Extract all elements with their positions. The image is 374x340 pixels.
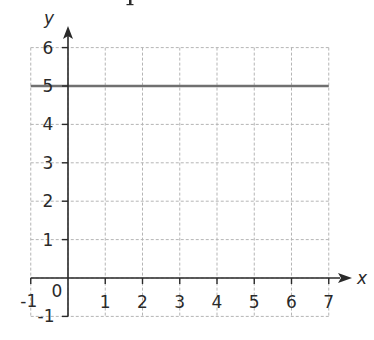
axes xyxy=(31,26,352,316)
y-tick-label: 1 xyxy=(43,230,54,250)
x-tick-label: 3 xyxy=(174,292,185,312)
y-tick-label: 2 xyxy=(43,191,54,211)
x-axis-title: x xyxy=(356,268,368,288)
x-tick-label: 6 xyxy=(286,292,297,312)
y-axis-title: y xyxy=(43,8,55,28)
grid-lines xyxy=(31,48,329,317)
x-tick-label: 1 xyxy=(100,292,111,312)
y-tick-label: 6 xyxy=(43,38,54,58)
x-tick-label: 7 xyxy=(323,292,334,312)
origin-label: 0 xyxy=(52,281,63,301)
graph-chart: -11234567-11234560xy xyxy=(0,0,374,340)
y-tick-label: -1 xyxy=(38,306,55,326)
y-tick-label: 3 xyxy=(43,153,54,173)
y-tick-label: 4 xyxy=(43,114,54,134)
x-tick-label: 4 xyxy=(212,292,223,312)
x-axis-arrow-icon xyxy=(338,273,352,283)
x-tick-label: -1 xyxy=(20,291,37,311)
cropped-text-fragment xyxy=(127,0,134,5)
x-tick-label: 5 xyxy=(249,292,260,312)
x-tick-label: 2 xyxy=(137,292,148,312)
y-tick-label: 5 xyxy=(43,76,54,96)
